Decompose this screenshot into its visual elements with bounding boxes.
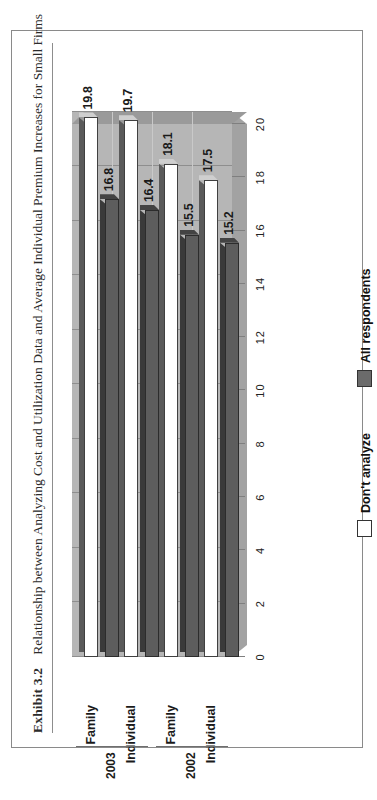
category-label: Individual <box>124 705 138 763</box>
bar <box>159 164 178 657</box>
year-group-label: 2002 <box>184 752 198 779</box>
value-axis-tick: 10 <box>254 379 266 403</box>
bar <box>140 210 159 657</box>
legend-label: All respondents <box>359 268 373 362</box>
bar-front-face <box>84 117 98 657</box>
category-label: Family <box>164 705 178 745</box>
value-axis-tick: 14 <box>254 272 266 296</box>
year-group-rule <box>156 746 228 747</box>
plot-right-wall <box>72 110 247 124</box>
plot-area: 17.515.218.115.519.716.419.816.8 <box>72 112 247 657</box>
bar-value-label: 19.8 <box>81 86 95 109</box>
value-axis-tick: 8 <box>254 432 266 456</box>
legend-item[interactable]: Don't analyze <box>357 433 373 537</box>
bar-front-face <box>124 120 138 657</box>
legend-swatch-all-respondents <box>357 370 372 387</box>
bar-value-label: 17.5 <box>201 149 215 172</box>
bar-value-label: 16.8 <box>102 168 116 191</box>
exhibit-number: Exhibit 3.2 <box>30 668 45 733</box>
year-group-label: 2003 <box>104 752 118 779</box>
axis-tick <box>232 123 245 124</box>
bar-value-label: 18.1 <box>161 133 175 156</box>
legend-item[interactable]: All respondents <box>357 268 373 386</box>
bar-chart: 17.515.218.115.519.716.419.816.8 2018161… <box>72 87 277 687</box>
bar <box>199 180 218 657</box>
bar-front-face <box>164 164 178 657</box>
value-axis-tick: 2 <box>254 592 266 616</box>
bar-front-face <box>204 180 218 657</box>
bar <box>100 199 119 657</box>
value-axis-tick: 4 <box>254 538 266 562</box>
exhibit-page-frame: Exhibit 3.2Relationship between Analyzin… <box>11 30 363 748</box>
value-axis-tick: 20 <box>254 112 266 136</box>
bar <box>180 235 199 657</box>
bar-value-label: 16.4 <box>142 179 156 202</box>
bar <box>220 243 239 657</box>
bar-value-label: 19.7 <box>121 89 135 112</box>
axis-tick <box>232 176 245 177</box>
legend-label: Don't analyze <box>359 433 373 513</box>
category-label: Individual <box>204 705 218 763</box>
chart-legend: Don't analyzeAll respondents <box>357 222 373 537</box>
bar-front-face <box>145 210 159 657</box>
value-axis-tick: 6 <box>254 485 266 509</box>
bar-front-face <box>185 235 199 657</box>
legend-swatch-dont-analyze <box>357 520 372 537</box>
bar <box>119 120 138 657</box>
value-axis-tick: 0 <box>254 645 266 669</box>
rotated-page-canvas: Exhibit 3.2Relationship between Analyzin… <box>12 31 362 747</box>
title-divider <box>52 43 53 733</box>
value-axis-tick: 12 <box>254 325 266 349</box>
bar-front-face <box>105 199 119 657</box>
bar <box>79 117 98 657</box>
bar-value-label: 15.2 <box>222 212 236 235</box>
exhibit-title-row: Exhibit 3.2Relationship between Analyzin… <box>28 43 54 733</box>
bar-value-label: 15.5 <box>182 203 196 226</box>
page-title: Relationship between Analyzing Cost and … <box>30 14 45 655</box>
value-axis-tick-labels: 20181614121086420 <box>254 97 274 657</box>
year-group-rule <box>76 746 148 747</box>
category-label: Family <box>84 705 98 745</box>
bar-front-face <box>225 243 239 657</box>
value-axis-tick: 16 <box>254 219 266 243</box>
value-axis-tick: 18 <box>254 165 266 189</box>
